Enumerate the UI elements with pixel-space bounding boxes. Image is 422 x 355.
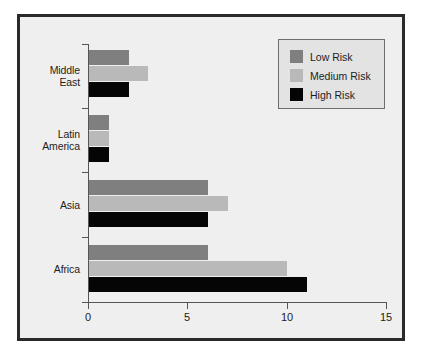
bar-africa-medium-risk [89,261,287,276]
legend-label-high-risk: High Risk [310,89,355,101]
category-label-latin-america: Latin America [42,128,80,152]
bar-asia-high-risk [89,212,208,227]
y-axis-tick [82,237,89,238]
bar-middle-east-high-risk [89,82,129,97]
x-axis-label-0: 0 [85,311,91,323]
x-axis-label-10: 10 [281,311,293,323]
legend-swatch-high-risk-icon [290,88,303,101]
x-axis-label-5: 5 [184,311,190,323]
legend-label-low-risk: Low Risk [310,51,353,63]
category-label-asia: Asia [60,199,80,211]
x-axis [88,302,387,303]
legend-item-low-risk: Low Risk [290,50,353,63]
y-axis-tick [82,108,89,109]
legend-item-medium-risk: Medium Risk [290,69,371,82]
bar-asia-low-risk [89,180,208,195]
bar-asia-medium-risk [89,196,228,211]
y-axis-tick [82,44,89,45]
bar-latin-america-high-risk [89,147,109,162]
chart-legend: Low Risk Medium Risk High Risk [278,39,385,109]
category-label-africa: Africa [54,263,80,275]
category-label-middle-east: Middle East [50,64,80,88]
x-axis-tick [386,302,387,309]
plot-area: 0 5 10 15 Middle East Latin America Asia… [20,17,402,338]
x-axis-tick [88,302,89,309]
bar-africa-low-risk [89,245,208,260]
chart-figure: 0 5 10 15 Middle East Latin America Asia… [17,14,405,341]
legend-label-medium-risk: Medium Risk [310,70,371,82]
bar-latin-america-medium-risk [89,131,109,146]
x-axis-tick [187,302,188,309]
bar-latin-america-low-risk [89,115,109,130]
legend-swatch-low-risk-icon [290,50,303,63]
x-axis-label-15: 15 [380,311,392,323]
x-axis-tick [287,302,288,309]
legend-swatch-medium-risk-icon [290,69,303,82]
y-axis-tick [82,172,89,173]
bar-middle-east-low-risk [89,50,129,65]
bar-middle-east-medium-risk [89,66,148,81]
legend-item-high-risk: High Risk [290,88,355,101]
bar-africa-high-risk [89,277,307,292]
